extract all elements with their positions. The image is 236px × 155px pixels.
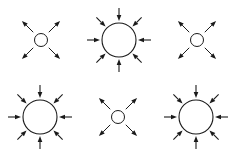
arrow-shaft-icon (205, 48, 212, 55)
arrow-head-icon (38, 92, 43, 98)
arrow-shaft-icon (96, 58, 101, 63)
panel-3 (178, 21, 216, 59)
arrow-shaft-icon (137, 58, 142, 63)
panel-4 (8, 85, 72, 149)
arrow-shaft-icon (103, 102, 110, 109)
figure-root (0, 0, 236, 155)
arrow-shaft-icon (214, 135, 219, 140)
circle-icon (35, 34, 48, 47)
arrow-head-icon (38, 136, 43, 142)
arrow-shaft-icon (173, 94, 178, 99)
panel-2 (87, 8, 151, 72)
arrow-head-icon (94, 38, 100, 43)
arrow-shaft-icon (214, 94, 219, 99)
circle-icon (191, 34, 204, 47)
circle-icon (112, 111, 125, 124)
arrow-head-icon (138, 38, 144, 43)
arrow-shaft-icon (49, 25, 56, 32)
arrow-head-icon (15, 115, 21, 120)
arrow-shaft-icon (17, 135, 22, 140)
arrow-shaft-icon (182, 25, 189, 32)
radial-arrow-figure (0, 0, 236, 155)
circle-icon (23, 100, 57, 134)
arrow-head-icon (171, 115, 177, 120)
arrow-head-icon (194, 92, 199, 98)
panel-5 (99, 98, 137, 136)
arrow-shaft-icon (126, 102, 133, 109)
arrow-shaft-icon (103, 125, 110, 132)
arrow-shaft-icon (126, 125, 133, 132)
arrow-shaft-icon (182, 48, 189, 55)
arrow-shaft-icon (49, 48, 56, 55)
arrow-shaft-icon (58, 94, 63, 99)
panel-6 (164, 85, 228, 149)
arrow-head-icon (117, 15, 122, 21)
arrow-shaft-icon (58, 135, 63, 140)
circle-icon (102, 23, 136, 57)
arrow-head-icon (59, 115, 65, 120)
arrow-shaft-icon (17, 94, 22, 99)
panel-1 (22, 21, 60, 59)
arrow-head-icon (117, 59, 122, 65)
arrow-head-icon (194, 136, 199, 142)
arrow-shaft-icon (26, 25, 33, 32)
arrow-shaft-icon (205, 25, 212, 32)
arrow-shaft-icon (173, 135, 178, 140)
arrow-shaft-icon (96, 17, 101, 22)
arrow-shaft-icon (26, 48, 33, 55)
circle-icon (179, 100, 213, 134)
arrow-shaft-icon (137, 17, 142, 22)
arrow-head-icon (215, 115, 221, 120)
